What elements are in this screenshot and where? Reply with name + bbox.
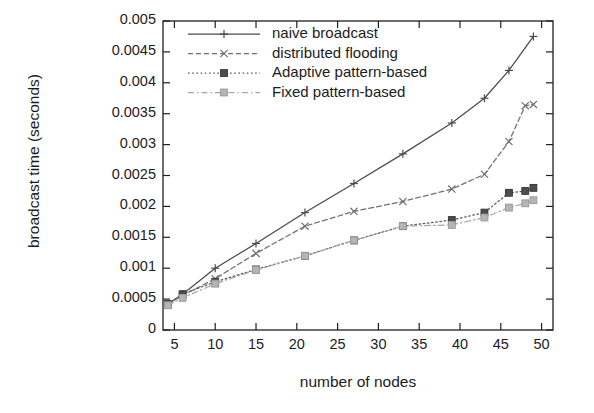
marker-square (506, 189, 513, 196)
marker-square-light (253, 267, 260, 274)
marker-square-light (221, 89, 228, 96)
legend-label-2: Adaptive pattern-based (272, 63, 427, 80)
marker-square-light (506, 204, 513, 211)
legend-label-0: naive broadcast (272, 24, 378, 41)
marker-square-light (179, 294, 186, 301)
marker-square-light (522, 200, 529, 207)
marker-square-light (399, 223, 406, 230)
marker-square-light (302, 252, 309, 259)
series-line-3 (168, 200, 534, 305)
marker-square-light (212, 280, 219, 287)
chart-figure: broadcast time (seconds) number of nodes… (0, 0, 594, 413)
marker-square (522, 188, 529, 195)
marker-square-light (164, 302, 171, 309)
marker-square-light (448, 222, 455, 229)
marker-square-light (530, 197, 537, 204)
series-line-2 (168, 188, 534, 304)
marker-square (221, 70, 228, 77)
plot-canvas (0, 0, 594, 413)
series-line-1 (168, 104, 534, 304)
legend-label-1: distributed flooding (272, 44, 398, 61)
marker-square-light (481, 214, 488, 221)
legend-label-3: Fixed pattern-based (272, 83, 405, 100)
marker-square (530, 184, 537, 191)
marker-square-light (351, 237, 358, 244)
